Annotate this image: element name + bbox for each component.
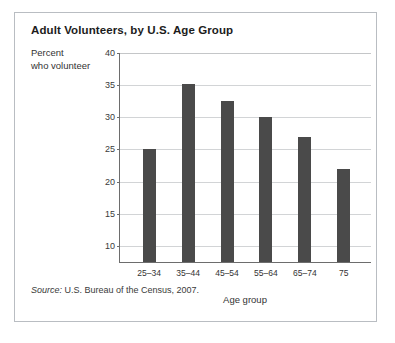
y-tick-mark: [117, 85, 120, 86]
gridline: [120, 149, 371, 150]
x-tick-label: 65–74: [293, 268, 317, 278]
y-tick-mark: [117, 182, 120, 183]
bar: [337, 169, 350, 262]
gridline: [120, 246, 371, 247]
plot-wrapper: 1015202530354025–3435–4445–5455–6465–747…: [15, 13, 378, 323]
source-text: U.S. Bureau of the Census, 2007.: [62, 285, 199, 295]
gridline: [120, 214, 371, 215]
y-tick-label: 10: [105, 241, 115, 251]
y-tick-mark: [117, 214, 120, 215]
x-tick-label: 45–54: [215, 268, 239, 278]
gridline: [120, 53, 371, 54]
y-tick-label: 40: [105, 48, 115, 58]
x-tick-label: 55–64: [254, 268, 278, 278]
y-tick-label: 25: [105, 144, 115, 154]
x-tick-label: 75: [339, 268, 348, 278]
y-tick-mark: [117, 149, 120, 150]
x-tick-label: 25–34: [137, 268, 161, 278]
gridline: [120, 182, 371, 183]
y-tick-mark: [117, 117, 120, 118]
y-tick-label: 35: [105, 80, 115, 90]
source-label: Source:: [31, 285, 62, 295]
gridline: [120, 117, 371, 118]
source-note: Source: U.S. Bureau of the Census, 2007.: [31, 285, 199, 295]
plot-area: 1015202530354025–3435–4445–5455–6465–747…: [119, 53, 371, 263]
x-axis-title: Age group: [119, 294, 371, 305]
bar: [259, 117, 272, 262]
x-tick-label: 35–44: [176, 268, 200, 278]
y-tick-mark: [117, 246, 120, 247]
y-tick-label: 30: [105, 112, 115, 122]
bar: [143, 149, 156, 262]
bar: [182, 84, 195, 262]
figure-card: Adult Volunteers, by U.S. Age Group Perc…: [14, 12, 377, 322]
y-tick-mark: [117, 53, 120, 54]
gridline: [120, 85, 371, 86]
y-tick-label: 15: [105, 209, 115, 219]
y-tick-label: 20: [105, 177, 115, 187]
bar: [221, 101, 234, 262]
bar: [298, 137, 311, 262]
